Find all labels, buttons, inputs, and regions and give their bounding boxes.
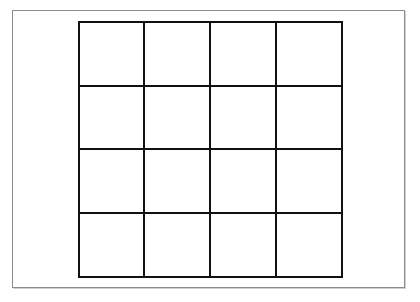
grid-cell-r1-c4: [276, 23, 341, 86]
grid-cell-r3-c3: [211, 150, 276, 213]
grid-4x4: [78, 21, 343, 278]
grid-cell-r1-c2: [145, 23, 210, 86]
grid-cell-r2-c2: [145, 86, 210, 149]
grid-cell-r4-c2: [145, 213, 210, 276]
grid-cell-r3-c1: [80, 150, 145, 213]
grid-cell-r2-c4: [276, 86, 341, 149]
grid-cell-r2-c3: [211, 86, 276, 149]
grid-cell-r1-c3: [211, 23, 276, 86]
grid-cell-r2-c1: [80, 86, 145, 149]
grid-cell-r3-c4: [276, 150, 341, 213]
grid-cell-r4-c4: [276, 213, 341, 276]
grid-cell-r1-c1: [80, 23, 145, 86]
grid-cell-r4-c3: [211, 213, 276, 276]
grid-cells: [80, 23, 341, 276]
grid-cell-r4-c1: [80, 213, 145, 276]
grid-cell-r3-c2: [145, 150, 210, 213]
